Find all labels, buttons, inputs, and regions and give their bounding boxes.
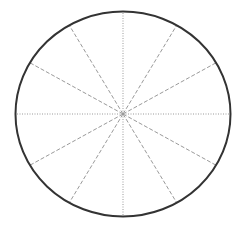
spoke-300deg: [123, 114, 177, 203]
circle-diagram: [0, 0, 242, 232]
spoke-60deg: [123, 25, 177, 114]
spoke-240deg: [69, 114, 123, 203]
spokes: [16, 12, 231, 217]
spoke-210deg: [30, 114, 123, 165]
spoke-150deg: [30, 63, 123, 114]
spoke-120deg: [69, 25, 123, 114]
diagram-canvas: [0, 0, 242, 232]
spoke-330deg: [123, 114, 216, 165]
spoke-30deg: [123, 63, 216, 114]
